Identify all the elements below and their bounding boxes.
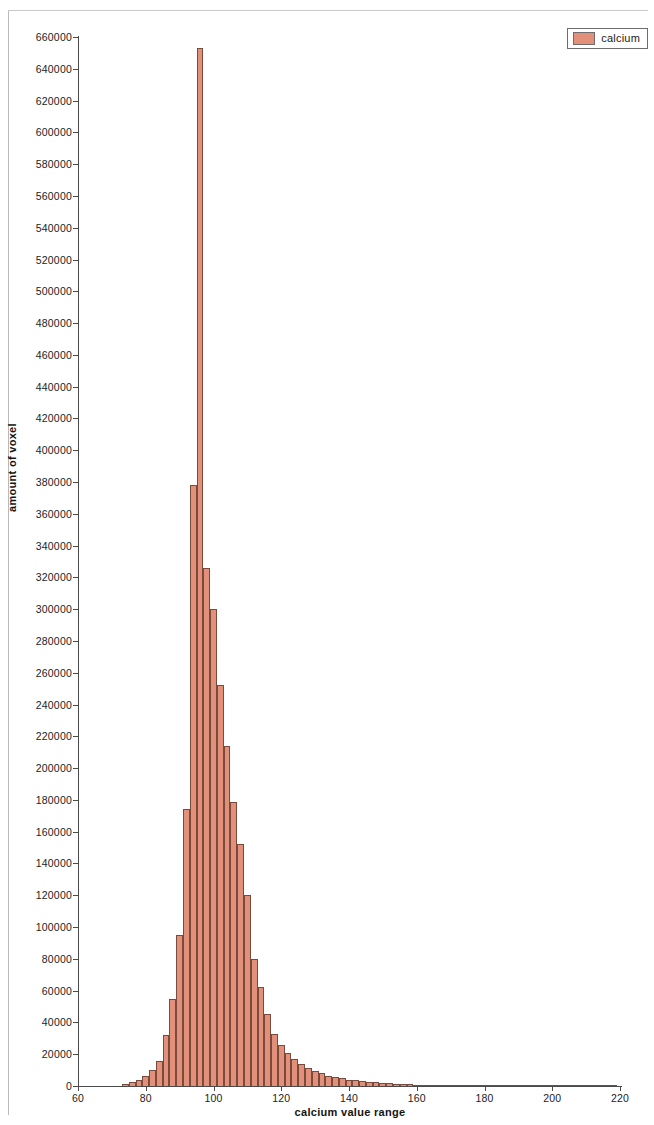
- x-axis-tick-label: 80: [140, 1092, 152, 1104]
- histogram-bar: [291, 1059, 298, 1086]
- y-axis-tick-label: 660000: [36, 31, 78, 43]
- histogram-bar: [583, 1085, 590, 1086]
- x-axis-tick-mark: [78, 1086, 79, 1091]
- histogram-bar: [230, 802, 237, 1087]
- histogram-bar: [224, 746, 231, 1086]
- histogram-bar: [285, 1053, 292, 1086]
- histogram-bar: [169, 999, 176, 1086]
- figure-top-border: [8, 10, 648, 11]
- histogram-bar: [576, 1085, 583, 1086]
- x-axis-tick-mark: [485, 1086, 486, 1091]
- histogram-bar: [325, 1076, 332, 1086]
- histogram-bar: [339, 1078, 346, 1086]
- histogram-bar: [190, 485, 197, 1086]
- y-axis-tick-label: 600000: [36, 126, 78, 138]
- x-axis-tick-label: 160: [408, 1092, 426, 1104]
- histogram-bar: [495, 1085, 502, 1086]
- x-axis-tick-mark: [146, 1086, 147, 1091]
- histogram-bar: [305, 1068, 312, 1086]
- histogram-bar: [461, 1085, 468, 1086]
- histogram-bar: [596, 1085, 603, 1086]
- histogram-bar: [210, 609, 217, 1086]
- histogram-bar: [468, 1085, 475, 1086]
- histogram-bar: [366, 1082, 373, 1086]
- histogram-bar: [142, 1076, 149, 1086]
- histogram-bar: [515, 1085, 522, 1086]
- histogram-bar: [610, 1085, 617, 1086]
- histogram-bar: [176, 935, 183, 1086]
- y-axis-tick-label: 40000: [42, 1016, 78, 1028]
- y-axis-tick-label: 560000: [36, 190, 78, 202]
- histogram-bar: [434, 1085, 441, 1086]
- histogram-bar: [393, 1084, 400, 1086]
- histogram-bar: [278, 1045, 285, 1086]
- histogram-bar: [271, 1034, 278, 1086]
- y-axis-tick-label: 220000: [36, 730, 78, 742]
- histogram-bar: [332, 1077, 339, 1086]
- histogram-bar: [488, 1085, 495, 1086]
- y-axis-tick-label: 400000: [36, 444, 78, 456]
- histogram-bar: [400, 1084, 407, 1086]
- histogram-bar: [373, 1082, 380, 1086]
- histogram-bar: [474, 1085, 481, 1086]
- y-axis-tick-label: 240000: [36, 699, 78, 711]
- x-axis-tick-label: 60: [72, 1092, 84, 1104]
- histogram-bar: [542, 1085, 549, 1086]
- x-axis-tick-mark: [620, 1086, 621, 1091]
- histogram-bar: [535, 1085, 542, 1086]
- y-axis-tick-label: 520000: [36, 254, 78, 266]
- y-axis-tick-label: 280000: [36, 635, 78, 647]
- y-axis-tick-label: 420000: [36, 412, 78, 424]
- y-axis-tick-label: 380000: [36, 476, 78, 488]
- histogram-bar: [183, 809, 190, 1086]
- histogram-bar: [149, 1070, 156, 1086]
- histogram-bar: [237, 844, 244, 1086]
- histogram-bar: [136, 1080, 143, 1086]
- x-axis-tick-mark: [281, 1086, 282, 1091]
- histogram-bar: [258, 987, 265, 1086]
- histogram-bar: [407, 1084, 414, 1086]
- y-axis-tick-label: 80000: [42, 953, 78, 965]
- histogram-bar: [454, 1085, 461, 1086]
- x-axis-title: calcium value range: [78, 1106, 622, 1118]
- histogram-bar: [529, 1085, 536, 1086]
- y-axis-tick-label: 460000: [36, 349, 78, 361]
- plot-area: 0200004000060000800001000001200001400001…: [78, 37, 620, 1086]
- histogram-bar: [549, 1085, 556, 1086]
- histogram-bar: [129, 1082, 136, 1086]
- histogram-bar: [413, 1085, 420, 1087]
- histogram-bar: [122, 1084, 129, 1086]
- x-axis-tick-mark: [552, 1086, 553, 1091]
- y-axis-title: amount of voxel: [6, 423, 18, 512]
- histogram-bar: [508, 1085, 515, 1086]
- histogram-bar: [603, 1085, 610, 1086]
- y-axis-tick-label: 540000: [36, 222, 78, 234]
- histogram-chart: calcium 02000040000600008000010000012000…: [0, 0, 654, 1125]
- y-axis-tick-label: 20000: [42, 1048, 78, 1060]
- x-axis-tick-label: 180: [475, 1092, 493, 1104]
- histogram-bar: [522, 1085, 529, 1086]
- x-axis-line: [78, 1086, 622, 1087]
- histogram-bar: [386, 1083, 393, 1086]
- histogram-bar: [556, 1085, 563, 1086]
- y-axis-tick-label: 500000: [36, 285, 78, 297]
- histogram-bar: [501, 1085, 508, 1086]
- histogram-bar: [203, 568, 210, 1086]
- y-axis-tick-label: 60000: [42, 985, 78, 997]
- histogram-bar: [562, 1085, 569, 1086]
- histogram-bar: [440, 1085, 447, 1086]
- y-axis-tick-label: 140000: [36, 857, 78, 869]
- y-axis-tick-label: 160000: [36, 826, 78, 838]
- x-axis-tick-mark: [417, 1086, 418, 1091]
- y-axis-tick-label: 640000: [36, 63, 78, 75]
- y-axis-tick-label: 340000: [36, 540, 78, 552]
- figure-left-border: [8, 10, 9, 1115]
- x-axis-tick-label: 100: [204, 1092, 222, 1104]
- x-axis-tick-label: 120: [272, 1092, 290, 1104]
- histogram-bar: [590, 1085, 597, 1086]
- y-axis-tick-label: 480000: [36, 317, 78, 329]
- y-axis-tick-label: 320000: [36, 571, 78, 583]
- histogram-bar: [264, 1014, 271, 1086]
- x-axis-tick-mark: [214, 1086, 215, 1091]
- x-axis-tick-label: 220: [611, 1092, 629, 1104]
